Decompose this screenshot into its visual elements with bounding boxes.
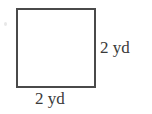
dimension-label-right: 2 yd [100,38,130,57]
scan-artifact [4,22,7,26]
square-shape [16,8,96,88]
geometry-figure: 2 yd 2 yd [0,0,152,114]
dimension-label-bottom: 2 yd [35,89,65,108]
